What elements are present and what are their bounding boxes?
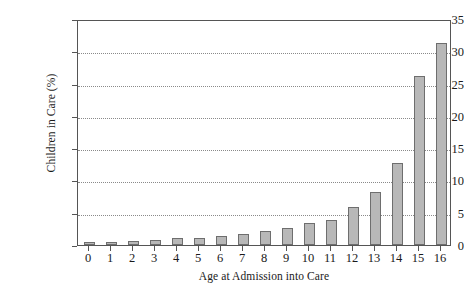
bar — [216, 236, 227, 245]
bar — [172, 238, 183, 245]
x-axis-tick-label: 16 — [425, 252, 455, 265]
bar — [238, 234, 249, 245]
bar — [392, 163, 403, 245]
bar — [194, 238, 205, 245]
bar — [282, 228, 293, 245]
bar — [84, 242, 95, 245]
bar — [436, 43, 447, 245]
bar — [128, 241, 139, 245]
bar — [304, 223, 315, 245]
bar — [348, 207, 359, 245]
bar — [260, 231, 271, 245]
bar — [326, 220, 337, 245]
bar — [414, 76, 425, 245]
bar-chart: Children in Care (%) 05101520253035 0123… — [0, 0, 464, 299]
y-axis-title: Children in Care (%) — [34, 0, 68, 246]
y-axis-tick-mark — [72, 246, 77, 247]
plot-area — [77, 20, 451, 246]
bar-group — [78, 21, 450, 245]
x-axis-title: Age at Admission into Care — [77, 270, 451, 282]
bar — [370, 192, 381, 245]
bar — [150, 240, 161, 245]
bar — [106, 242, 117, 245]
